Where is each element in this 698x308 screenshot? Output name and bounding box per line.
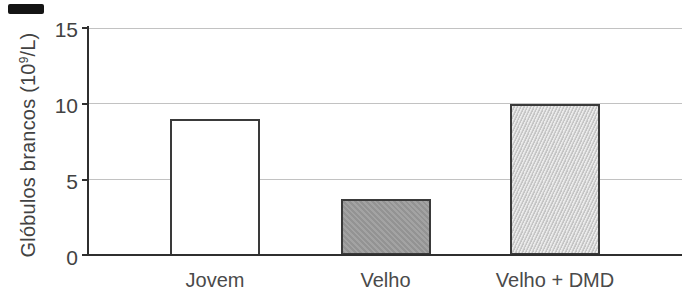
bar-velho-dmd: [510, 104, 600, 256]
gridline-15: [89, 28, 682, 29]
y-tick-label-5: 5: [30, 171, 78, 193]
bar-jovem: [170, 119, 260, 256]
y-tick-label-15: 15: [30, 19, 78, 41]
y-tick-label-10: 10: [30, 95, 78, 117]
scan-artifact-mark: [8, 4, 44, 14]
y-tick-5: [82, 179, 89, 181]
y-axis-line: [87, 26, 89, 256]
y-tick-15: [82, 27, 89, 29]
y-tick-10: [82, 103, 89, 105]
bar-velho: [341, 199, 431, 255]
category-label-jovem: Jovem: [135, 268, 295, 292]
category-label-velho: Velho: [306, 268, 466, 292]
bar-chart-figure: Glóbulos brancos (109/L) 051015JovemVelh…: [0, 0, 698, 308]
y-axis-title: Glóbulos brancos (109/L): [17, 23, 43, 267]
y-tick-label-0: 0: [30, 247, 78, 269]
y-axis-title-superscript: 9: [17, 56, 31, 63]
category-label-velho-dmd: Velho + DMD: [475, 268, 635, 292]
x-axis-baseline: [82, 254, 682, 256]
y-axis-title-text: Glóbulos brancos (10: [17, 63, 39, 257]
